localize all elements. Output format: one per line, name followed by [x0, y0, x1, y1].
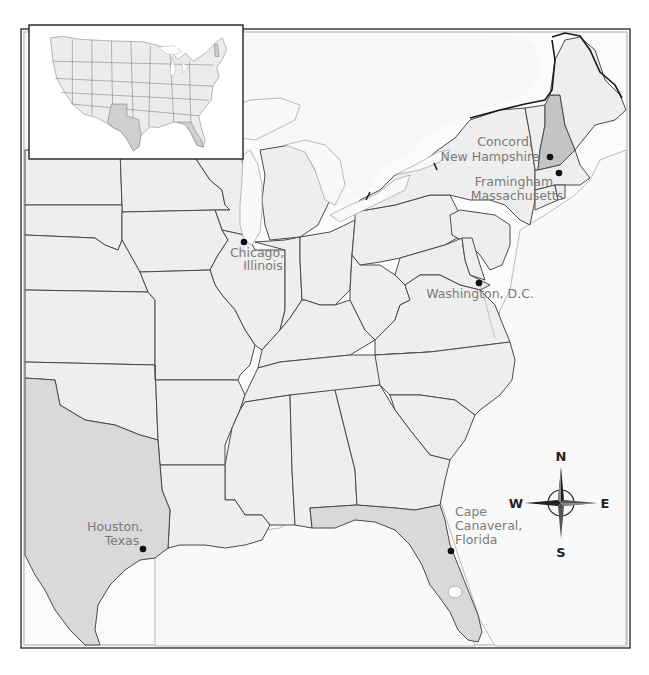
city-dot-houston[interactable] [140, 546, 147, 553]
label-houston-line2: Texas [104, 533, 140, 548]
compass-south: S [556, 545, 565, 560]
eastern-us-map: Concord, New Hampshire Framingham, Massa… [0, 0, 649, 675]
inset-locator-map [29, 25, 243, 159]
state-iowa [122, 210, 228, 272]
label-cape-line1: Cape [455, 504, 487, 519]
label-framingham-line1: Framingham, [475, 174, 557, 189]
label-chicago-line2: Illinois [243, 258, 283, 273]
compass-north: N [556, 449, 567, 464]
compass-east: E [601, 496, 610, 511]
label-concord-line1: Concord, [477, 134, 533, 149]
lake-okeechobee [448, 586, 462, 598]
label-cape-line3: Florida [455, 532, 498, 547]
label-washington: Washington, D.C. [426, 286, 534, 301]
label-concord-line2: New Hampshire [441, 149, 540, 164]
city-dot-concord[interactable] [547, 154, 554, 161]
label-houston-line1: Houston, [87, 519, 143, 534]
label-cape-line2: Canaveral, [455, 518, 522, 533]
city-dot-cape-canaveral[interactable] [448, 548, 455, 555]
state-kansas [25, 290, 155, 365]
compass-west: W [509, 496, 523, 511]
label-framingham-line2: Massachusetts [471, 188, 563, 203]
location-framingham[interactable]: Framingham, Massachusetts [471, 170, 563, 203]
